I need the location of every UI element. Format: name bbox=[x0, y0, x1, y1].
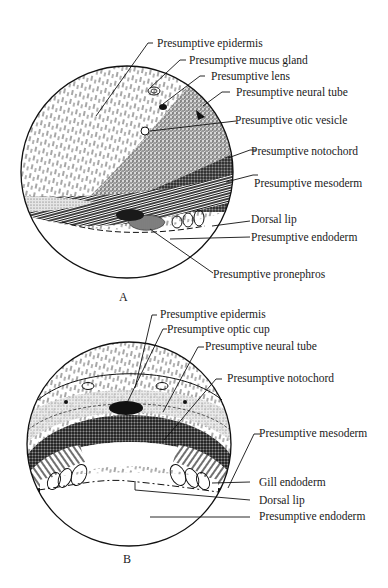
label-a-presumptive-neural-tube: Presumptive neural tube bbox=[236, 86, 348, 99]
label-a-presumptive-epidermis: Presumptive epidermis bbox=[157, 37, 263, 50]
label-b-presumptive-notochord: Presumptive notochord bbox=[227, 372, 334, 385]
panel-label-a: A bbox=[119, 290, 128, 305]
label-b-dorsal-lip: Dorsal lip bbox=[259, 494, 305, 507]
label-a-presumptive-pronephros: Presumptive pronephros bbox=[213, 268, 325, 281]
panel-label-b: B bbox=[123, 552, 131, 567]
label-a-presumptive-notochord: Presumptive notochord bbox=[251, 145, 358, 158]
label-b-presumptive-epidermis: Presumptive epidermis bbox=[160, 308, 266, 321]
label-b-presumptive-endoderm: Presumptive endoderm bbox=[259, 510, 365, 523]
label-b-presumptive-neural-tube: Presumptive neural tube bbox=[205, 340, 317, 353]
label-a-presumptive-mesoderm: Presumptive mesoderm bbox=[254, 177, 362, 190]
label-a-presumptive-otic-vesicle: Presumptive otic vesicle bbox=[235, 114, 347, 127]
label-b-presumptive-optic-cup: Presumptive optic cup bbox=[167, 323, 270, 336]
label-b-gill-endoderm: Gill endoderm bbox=[259, 476, 326, 489]
label-a-dorsal-lip: Dorsal lip bbox=[251, 213, 297, 226]
label-a-presumptive-lens: Presumptive lens bbox=[211, 70, 290, 83]
label-a-presumptive-mucus-gland: Presumptive mucus gland bbox=[189, 54, 308, 67]
label-a-presumptive-endoderm: Presumptive endoderm bbox=[251, 231, 357, 244]
label-b-presumptive-mesoderm: Presumptive mesoderm bbox=[259, 427, 367, 440]
